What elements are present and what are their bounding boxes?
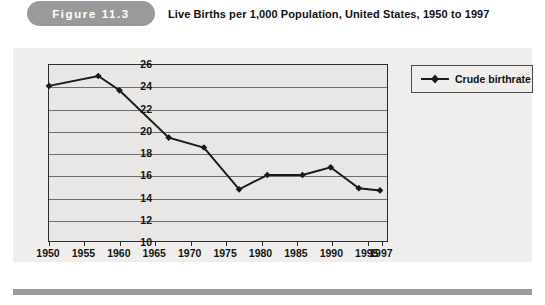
y-axis-tick-label: 14 <box>112 192 152 204</box>
series-crude-birthrate <box>49 65 387 241</box>
figure-title: Live Births per 1,000 Population, United… <box>168 1 490 26</box>
y-axis-tick-label: 16 <box>112 169 152 181</box>
x-axis-tick-label: 1997 <box>358 247 404 259</box>
chart-panel: 101214161820222426 195019551960196519701… <box>13 48 532 262</box>
x-axis-tick <box>84 241 85 246</box>
x-axis-tick <box>297 241 298 246</box>
y-axis-tick-label: 18 <box>112 147 152 159</box>
x-axis-tick <box>382 241 383 246</box>
x-axis-tick <box>262 241 263 246</box>
data-point-marker <box>299 172 306 179</box>
x-axis-tick <box>332 241 333 246</box>
chart-legend: Crude birthrate <box>411 65 533 93</box>
legend-entry-label: Crude birthrate <box>455 73 531 85</box>
plot-area <box>48 64 388 242</box>
y-axis-tick-label: 20 <box>112 125 152 137</box>
y-axis-tick-label: 12 <box>112 214 152 226</box>
y-axis-tick-label: 24 <box>112 80 152 92</box>
legend-line-marker-icon <box>420 73 450 85</box>
data-point-marker <box>264 172 271 179</box>
x-axis-tick <box>49 241 50 246</box>
figure-number-badge: Figure 11.3 <box>27 1 155 26</box>
y-axis-tick-label: 26 <box>112 58 152 70</box>
series-line <box>49 76 380 190</box>
data-point-marker <box>377 187 384 194</box>
y-axis-tick-label: 22 <box>112 103 152 115</box>
bottom-divider <box>13 289 532 295</box>
x-axis-tick <box>155 241 156 246</box>
figure-header: Figure 11.3 Live Births per 1,000 Popula… <box>0 0 545 30</box>
x-axis-tick <box>368 241 369 246</box>
x-axis-tick <box>226 241 227 246</box>
x-axis-tick <box>191 241 192 246</box>
data-point-marker <box>46 83 53 90</box>
